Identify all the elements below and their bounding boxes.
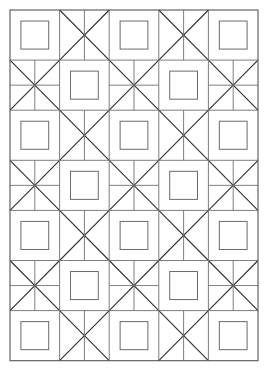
pattern-cell-star8 <box>109 60 159 110</box>
pattern-cell-star8 <box>109 261 159 311</box>
pattern-cell-star8 <box>109 160 159 210</box>
pattern-cell-star8 <box>10 261 60 311</box>
pattern-cell-star8 <box>208 160 258 210</box>
canvas-background <box>0 0 269 374</box>
pattern-cell-star8 <box>10 160 60 210</box>
pattern-cell-star8 <box>208 60 258 110</box>
pattern-cell-star8 <box>10 60 60 110</box>
pattern-canvas <box>0 0 269 374</box>
pattern-cell-star8 <box>208 261 258 311</box>
